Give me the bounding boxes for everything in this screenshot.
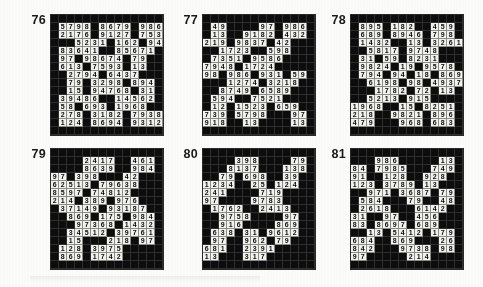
digit-cell[interactable]: 7 [227, 213, 235, 221]
digit-cell[interactable]: 9 [367, 189, 375, 197]
digit-cell[interactable]: 5 [83, 229, 91, 237]
digit-cell[interactable]: 3 [115, 205, 123, 213]
digit-cell[interactable]: 1 [283, 229, 291, 237]
digit-cell[interactable]: 9 [227, 71, 235, 79]
digit-cell[interactable]: 4 [115, 55, 123, 63]
digit-cell[interactable]: 7 [415, 47, 423, 55]
digit-cell[interactable]: 9 [83, 213, 91, 221]
digit-cell[interactable]: 5 [431, 63, 439, 71]
digit-cell[interactable]: 1 [375, 79, 383, 87]
digit-cell[interactable]: 6 [99, 221, 107, 229]
digit-cell[interactable]: 9 [367, 71, 375, 79]
digit-cell[interactable]: 2 [251, 103, 259, 111]
digit-cell[interactable]: 4 [99, 189, 107, 197]
digit-cell[interactable]: 3 [251, 39, 259, 47]
digit-cell[interactable]: 5 [267, 47, 275, 55]
digit-cell[interactable]: 3 [91, 111, 99, 119]
digit-cell[interactable]: 9 [283, 23, 291, 31]
digit-cell[interactable]: 9 [211, 63, 219, 71]
digit-cell[interactable]: 1 [455, 39, 463, 47]
digit-cell[interactable]: 3 [155, 31, 163, 39]
digit-cell[interactable]: 8 [211, 245, 219, 253]
digit-cell[interactable]: 8 [367, 111, 375, 119]
digit-cell[interactable]: 1 [383, 189, 391, 197]
digit-cell[interactable]: 9 [67, 95, 75, 103]
digit-cell[interactable]: 1 [375, 87, 383, 95]
digit-cell[interactable]: 3 [447, 157, 455, 165]
digit-cell[interactable]: 5 [147, 31, 155, 39]
digit-cell[interactable]: 4 [283, 31, 291, 39]
digit-cell[interactable]: 5 [59, 103, 67, 111]
digit-cell[interactable]: 1 [283, 79, 291, 87]
digit-cell[interactable]: 5 [367, 47, 375, 55]
digit-cell[interactable]: 9 [251, 55, 259, 63]
digit-cell[interactable]: 9 [275, 189, 283, 197]
digit-cell[interactable]: 8 [91, 173, 99, 181]
digit-cell[interactable]: 6 [91, 95, 99, 103]
digit-cell[interactable]: 8 [107, 189, 115, 197]
digit-cell[interactable]: 6 [67, 253, 75, 261]
digit-cell[interactable]: 1 [211, 119, 219, 127]
digit-cell[interactable]: 6 [139, 95, 147, 103]
digit-cell[interactable]: 3 [67, 229, 75, 237]
digit-cell[interactable]: 7 [383, 87, 391, 95]
digit-cell[interactable]: 4 [147, 165, 155, 173]
digit-cell[interactable]: 8 [415, 189, 423, 197]
digit-cell[interactable]: 1 [359, 111, 367, 119]
digit-cell[interactable]: 4 [367, 39, 375, 47]
digit-cell[interactable]: 6 [447, 39, 455, 47]
digit-cell[interactable]: 7 [67, 111, 75, 119]
digit-cell[interactable]: 2 [67, 119, 75, 127]
digit-cell[interactable]: 9 [283, 213, 291, 221]
digit-cell[interactable]: 7 [251, 63, 259, 71]
digit-cell[interactable]: 5 [267, 87, 275, 95]
digit-cell[interactable]: 7 [67, 23, 75, 31]
digit-cell[interactable]: 9 [51, 173, 59, 181]
digit-cell[interactable]: 6 [51, 181, 59, 189]
digit-cell[interactable]: 8 [423, 103, 431, 111]
digit-cell[interactable]: 6 [415, 205, 423, 213]
digit-cell[interactable]: 7 [67, 79, 75, 87]
digit-cell[interactable]: 8 [67, 213, 75, 221]
digit-cell[interactable]: 6 [415, 221, 423, 229]
digit-cell[interactable]: 9 [107, 63, 115, 71]
digit-cell[interactable]: 8 [131, 205, 139, 213]
digit-cell[interactable]: 9 [123, 23, 131, 31]
digit-cell[interactable]: 1 [291, 119, 299, 127]
digit-cell[interactable]: 9 [235, 39, 243, 47]
digit-cell[interactable]: 3 [243, 229, 251, 237]
digit-cell[interactable]: 1 [399, 63, 407, 71]
digit-cell[interactable]: 6 [99, 55, 107, 63]
digit-cell[interactable]: 2 [375, 63, 383, 71]
digit-cell[interactable]: 1 [251, 229, 259, 237]
digit-cell[interactable]: 9 [75, 23, 83, 31]
digit-cell[interactable]: 8 [243, 39, 251, 47]
digit-cell[interactable]: 8 [375, 47, 383, 55]
digit-cell[interactable]: 1 [67, 237, 75, 245]
digit-cell[interactable]: 9 [139, 79, 147, 87]
digit-cell[interactable]: 5 [439, 23, 447, 31]
digit-cell[interactable]: 9 [123, 229, 131, 237]
digit-cell[interactable]: 1 [147, 47, 155, 55]
digit-cell[interactable]: 9 [407, 47, 415, 55]
digit-cell[interactable]: 9 [219, 39, 227, 47]
digit-cell[interactable]: 2 [83, 39, 91, 47]
digit-cell[interactable]: 3 [115, 229, 123, 237]
digit-cell[interactable]: 3 [115, 63, 123, 71]
digit-cell[interactable]: 4 [431, 205, 439, 213]
digit-cell[interactable]: 6 [203, 245, 211, 253]
digit-cell[interactable]: 4 [275, 39, 283, 47]
digit-cell[interactable]: 8 [383, 205, 391, 213]
digit-cell[interactable]: 1 [99, 39, 107, 47]
digit-cell[interactable]: 4 [291, 181, 299, 189]
digit-cell[interactable]: 8 [107, 111, 115, 119]
digit-cell[interactable]: 7 [99, 181, 107, 189]
digit-cell[interactable]: 1 [147, 119, 155, 127]
digit-cell[interactable]: 3 [83, 197, 91, 205]
digit-cell[interactable]: 1 [383, 173, 391, 181]
digit-cell[interactable]: 8 [391, 79, 399, 87]
digit-cell[interactable]: 9 [299, 157, 307, 165]
digit-cell[interactable]: 1 [407, 39, 415, 47]
digit-cell[interactable]: 9 [351, 173, 359, 181]
digit-cell[interactable]: 1 [275, 181, 283, 189]
